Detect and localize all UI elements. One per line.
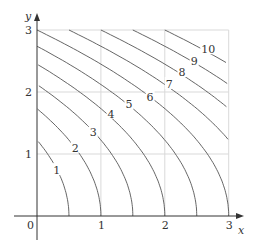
level-curve-2 — [38, 109, 101, 216]
level-curve-6 — [37, 30, 229, 216]
level-label-1: 1 — [53, 164, 60, 177]
level-label-6: 6 — [147, 91, 154, 104]
level-label-2: 2 — [72, 142, 79, 155]
level-curves — [37, 30, 229, 216]
x-axis-arrow-icon — [236, 213, 244, 219]
contour-plot: x y 0 123123 12345678910 — [0, 0, 259, 247]
level-label-7: 7 — [166, 78, 173, 91]
y-tick-3: 3 — [25, 24, 32, 37]
level-label-4: 4 — [108, 108, 115, 121]
level-label-9: 9 — [191, 55, 198, 68]
x-axis-label: x — [238, 224, 245, 237]
level-label-8: 8 — [179, 66, 186, 79]
level-label-5: 5 — [126, 98, 133, 111]
y-tick-2: 2 — [25, 86, 32, 99]
y-axis-arrow-icon — [34, 13, 40, 21]
level-curve-3 — [39, 86, 133, 216]
origin-label: 0 — [27, 219, 34, 232]
grid-lines — [37, 30, 229, 216]
y-tick-1: 1 — [25, 148, 32, 161]
x-tick-2: 2 — [162, 219, 169, 232]
x-tick-3: 3 — [226, 219, 233, 232]
y-axis-label: y — [24, 10, 32, 23]
level-curve-8 — [101, 30, 226, 107]
level-label-10: 10 — [201, 43, 215, 56]
x-tick-1: 1 — [98, 219, 105, 232]
level-curve-1 — [38, 142, 69, 216]
level-label-3: 3 — [90, 126, 97, 139]
